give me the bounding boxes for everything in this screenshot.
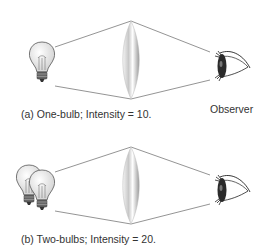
panel-a (29, 21, 250, 99)
eye-icon (215, 175, 250, 205)
eye-icon (215, 51, 250, 81)
observer-label: Observer (210, 103, 253, 115)
panel-b (16, 147, 250, 224)
lens-icon (123, 21, 140, 99)
lens-icon (123, 147, 140, 224)
caption-panel-a: (a) One-bulb; Intensity = 10. (21, 108, 151, 120)
light-bulb-icon (29, 42, 54, 82)
caption-panel-b: (b) Two-bulbs; Intensity = 20. (21, 233, 156, 245)
optics-diagram (0, 0, 269, 250)
light-bulb-icon (29, 170, 54, 210)
